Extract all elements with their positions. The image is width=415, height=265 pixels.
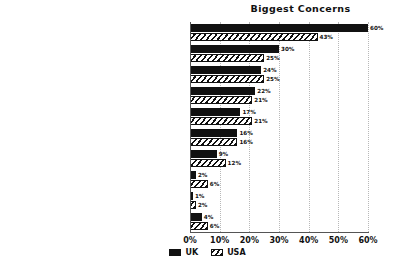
bar-uk	[190, 24, 368, 32]
bar-value-label: 6%	[210, 180, 220, 188]
bar-usa	[190, 159, 226, 167]
x-tick-label: 40%	[299, 236, 318, 245]
bar-value-label: 17%	[242, 108, 255, 116]
bar-value-label: 30%	[281, 45, 294, 53]
gridline	[309, 22, 311, 232]
bar-value-label: 9%	[219, 150, 229, 158]
legend-swatch-icon	[211, 249, 223, 256]
bar-uk	[190, 66, 261, 74]
bar-value-label: 60%	[370, 24, 383, 32]
bar-uk	[190, 129, 237, 137]
legend-swatch-icon	[169, 249, 181, 256]
bar-value-label: 21%	[254, 117, 267, 125]
bar-usa	[190, 138, 237, 146]
x-tick-label: 10%	[210, 236, 229, 245]
bar-usa	[190, 33, 318, 41]
x-tick-label: 60%	[358, 236, 377, 245]
bar-value-label: 4%	[204, 213, 214, 221]
gridline	[368, 22, 370, 232]
bar-value-label: 12%	[228, 159, 241, 167]
bar-value-label: 21%	[254, 96, 267, 104]
bar-value-label: 22%	[257, 87, 270, 95]
x-axis-line	[190, 232, 369, 233]
chart-title: Biggest Concerns	[186, 3, 415, 14]
bar-value-label: 16%	[239, 138, 252, 146]
bar-value-label: 43%	[320, 33, 333, 41]
bar-usa	[190, 75, 264, 83]
bar-value-label: 1%	[195, 192, 205, 200]
bar-value-label: 25%	[266, 54, 279, 62]
bar-usa	[190, 180, 208, 188]
bar-chart: Biggest Concerns 60%43%30%25%24%25%22%21…	[0, 0, 415, 265]
plot-area: 60%43%30%25%24%25%22%21%17%21%16%16%9%12…	[190, 22, 368, 232]
x-tick-label: 0%	[183, 236, 197, 245]
y-axis-line	[190, 22, 191, 232]
bar-value-label: 6%	[210, 222, 220, 230]
bar-value-label: 16%	[239, 129, 252, 137]
bar-uk	[190, 45, 279, 53]
bar-value-label: 2%	[198, 171, 208, 179]
legend-item-usa[interactable]: USA	[211, 248, 245, 257]
bar-usa	[190, 54, 264, 62]
x-tick-label: 30%	[269, 236, 288, 245]
legend-item-uk[interactable]: UK	[169, 248, 198, 257]
legend-label: USA	[227, 248, 245, 257]
bar-usa	[190, 96, 252, 104]
x-tick-label: 20%	[240, 236, 259, 245]
bar-uk	[190, 87, 255, 95]
gridline	[338, 22, 340, 232]
bar-uk	[190, 108, 240, 116]
bar-value-label: 25%	[266, 75, 279, 83]
bar-usa	[190, 117, 252, 125]
bar-value-label: 2%	[198, 201, 208, 209]
legend-label: UK	[185, 248, 198, 257]
bar-value-label: 24%	[263, 66, 276, 74]
bar-usa	[190, 222, 208, 230]
bar-uk	[190, 150, 217, 158]
chart-legend: UKUSA	[0, 248, 415, 257]
x-tick-label: 50%	[329, 236, 348, 245]
bar-uk	[190, 213, 202, 221]
